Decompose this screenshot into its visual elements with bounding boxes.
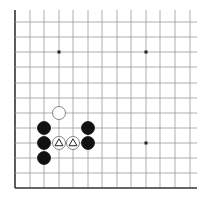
go-board[interactable] <box>0 0 210 200</box>
black-stone[interactable] <box>82 137 95 150</box>
black-stone[interactable] <box>82 122 95 135</box>
stones <box>38 107 95 165</box>
white-stone-icon <box>53 107 66 120</box>
star-point-icon <box>145 51 148 54</box>
star-point-icon <box>145 142 148 145</box>
white-stone[interactable] <box>53 107 66 120</box>
black-stone[interactable] <box>38 122 51 135</box>
white-stone[interactable] <box>53 137 66 150</box>
black-stone-icon <box>82 137 95 150</box>
white-stone[interactable] <box>67 137 80 150</box>
black-stone-icon <box>38 152 51 165</box>
black-stone[interactable] <box>38 152 51 165</box>
star-point-icon <box>58 51 61 54</box>
black-stone-icon <box>38 137 51 150</box>
black-stone-icon <box>82 122 95 135</box>
star-points <box>58 51 148 145</box>
black-stone[interactable] <box>38 137 51 150</box>
black-stone-icon <box>38 122 51 135</box>
